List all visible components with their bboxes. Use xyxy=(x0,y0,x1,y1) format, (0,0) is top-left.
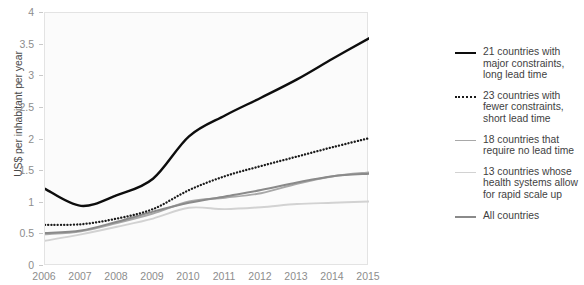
legend-item[interactable]: 13 countries whose health systems allow … xyxy=(455,166,584,201)
y-tick-mark xyxy=(39,107,43,108)
legend-item-label: 13 countries whose health systems allow … xyxy=(483,166,584,201)
legend-item-label: 21 countries with major constraints, lon… xyxy=(483,46,584,81)
y-tick-mark xyxy=(39,170,43,171)
legend-item[interactable]: All countries xyxy=(455,210,584,222)
y-tick-label: 3 xyxy=(0,69,34,81)
y-tick-mark xyxy=(39,233,43,234)
y-tick-label: 2 xyxy=(0,133,34,145)
plot-area xyxy=(44,12,368,265)
legend-item-label: 18 countries that require no lead time xyxy=(483,134,584,157)
y-tick-label: 0.5 xyxy=(0,227,34,239)
series-lines xyxy=(45,13,369,266)
legend-swatch-icon xyxy=(455,96,476,98)
y-tick-mark xyxy=(39,202,43,203)
series-line xyxy=(45,38,369,206)
legend-item-label: 23 countries with fewer constraints, sho… xyxy=(483,90,584,125)
y-tick-mark xyxy=(39,265,43,266)
legend-swatch-icon xyxy=(455,172,476,173)
legend-item[interactable]: 23 countries with fewer constraints, sho… xyxy=(455,90,584,125)
y-tick-label: 1 xyxy=(0,196,34,208)
legend-swatch-icon xyxy=(455,216,476,218)
legend-item-label: All countries xyxy=(483,210,539,222)
legend-swatch-icon xyxy=(455,52,476,54)
series-line xyxy=(45,201,369,240)
y-tick-label: 3.5 xyxy=(0,38,34,50)
y-tick-mark xyxy=(39,12,43,13)
y-tick-label: 1.5 xyxy=(0,164,34,176)
y-tick-mark xyxy=(39,139,43,140)
legend-swatch-icon xyxy=(455,140,476,141)
y-tick-mark xyxy=(39,75,43,76)
y-tick-label: 2.5 xyxy=(0,101,34,113)
y-tick-mark xyxy=(39,44,43,45)
legend-item[interactable]: 21 countries with major constraints, lon… xyxy=(455,46,584,81)
x-tick-label: 2015 xyxy=(346,270,390,282)
legend-item[interactable]: 18 countries that require no lead time xyxy=(455,134,584,157)
y-tick-label: 4 xyxy=(0,6,34,18)
legend: 21 countries with major constraints, lon… xyxy=(455,46,584,230)
series-line xyxy=(45,138,369,225)
chart-container: US$ per inhabitant per year 00.511.522.5… xyxy=(0,0,584,285)
